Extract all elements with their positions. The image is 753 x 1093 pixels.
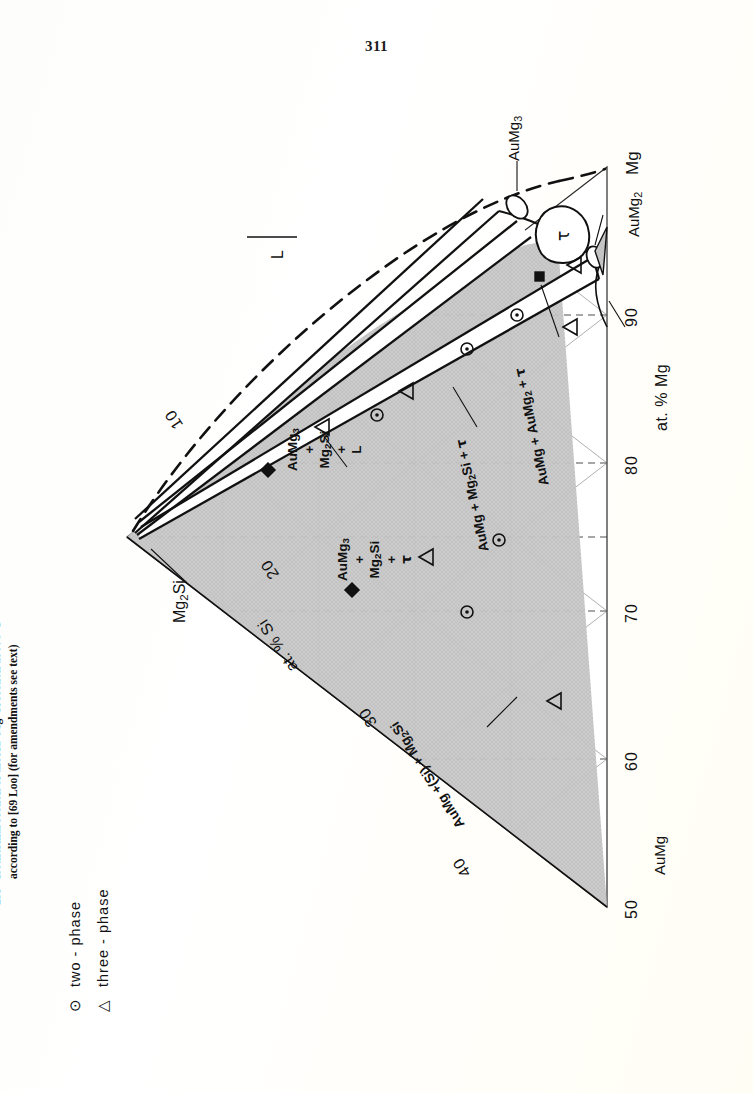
mg-tick-80: 80 [623,455,641,475]
corner-label-mg2si: Mg2Si [171,580,190,623]
mg-tick-60: 60 [623,751,641,771]
phase-label-aumg3-mg2si-tau: AuMg3+Mg2Si+τ [335,538,415,581]
caption-line-2: according to [69 Loo] (for amendments se… [7,644,19,879]
ternary-phase-diagram: ⊙ two - phase △ three - phase [47,67,707,1027]
field-label-liquid: L [269,250,287,259]
compound-label-aumg: AuMg [651,835,668,874]
mg-tick-90: 90 [623,307,641,327]
legend-item-two-phase: ⊙ two - phase [61,888,89,1012]
legend-label-three-phase: three - phase [89,888,117,986]
caption-number: 255 [0,879,5,905]
phase-label-aumg3-mg2si-l: AuMg3+Mg2Si+L [285,428,365,471]
mg-tick-70: 70 [623,603,641,623]
corner-label-mg: Mg [623,151,643,175]
legend-item-three-phase: △ three - phase [89,888,117,1012]
circle-dot-marker-icon: ⊙ [61,997,89,1013]
mg-axis-name: at. % Mg [653,363,671,430]
figure-caption: 255Isothermal section of the Au–Mg–Si se… [0,605,21,905]
legend: ⊙ two - phase △ three - phase [61,888,117,1012]
legend-label-two-phase: two - phase [61,901,89,987]
triangle-marker-icon: △ [89,997,117,1013]
field-label-tau: τ [553,230,573,240]
mg-tick-50: 50 [623,899,641,919]
compound-label-aumg2: AuMg2 [625,191,644,236]
figure-stage: ⊙ two - phase △ three - phase [0,0,753,1093]
caption-line-1: Isothermal section of the Au–Mg–Si secti… [0,621,2,879]
compound-label-aumg3: AuMg3 [505,115,524,160]
